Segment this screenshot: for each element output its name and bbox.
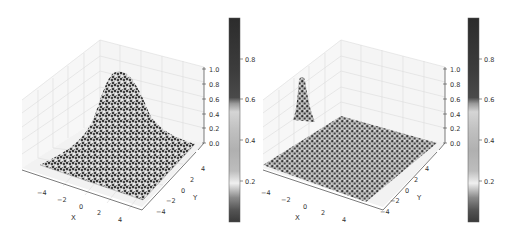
left-cbar-tick-0.6: 0.6	[245, 96, 255, 104]
right-colorbar: 0.8 0.6 0.4 0.2	[468, 18, 494, 222]
left-cbar-tick-0.8: 0.8	[245, 56, 255, 64]
left-z-tick-0.4: 0.4	[209, 111, 219, 119]
right-z-tick-1.0: 1.0	[450, 66, 460, 74]
left-y-tick-2: 2	[190, 176, 194, 184]
right-cbar-tick-0.6: 0.6	[484, 96, 494, 104]
right-x-tick--4: −4	[261, 189, 271, 197]
left-x-tick-4: 4	[118, 216, 122, 224]
left-z-tick-0.6: 0.6	[209, 96, 219, 104]
figure: 1.0 0.8 0.6 0.4 0.2 0.0 −4 −2 0 2 4 X 4 …	[0, 0, 517, 236]
right-y-tick--4: −4	[380, 208, 390, 216]
left-z-tick-1.0: 1.0	[209, 66, 219, 74]
right-y-tick-0: 0	[405, 187, 409, 195]
right-y-tick--2: −2	[390, 197, 400, 205]
left-z-tick-0.2: 0.2	[209, 125, 219, 133]
right-x-axis-label: X	[295, 214, 300, 222]
left-x-tick--4: −4	[37, 189, 47, 197]
right-x-tick-2: 2	[321, 209, 325, 217]
left-colorbar: 0.8 0.6 0.4 0.2	[229, 18, 255, 222]
left-y-tick--2: −2	[166, 197, 176, 205]
right-x-tick-0: 0	[303, 203, 307, 211]
left-y-tick--4: −4	[156, 208, 166, 216]
right-z-tick-0.8: 0.8	[450, 81, 460, 89]
right-z-tick-0.4: 0.4	[450, 111, 460, 119]
left-x-tick-2: 2	[97, 209, 101, 217]
right-cbar-tick-0.2: 0.2	[484, 178, 494, 186]
left-cbar-tick-0.2: 0.2	[245, 178, 255, 186]
left-x-tick-0: 0	[79, 203, 83, 211]
left-3d-axes: 1.0 0.8 0.6 0.4 0.2 0.0 −4 −2 0 2 4 X 4 …	[22, 40, 219, 224]
right-z-tick-0.2: 0.2	[450, 125, 460, 133]
right-z-tick-0.6: 0.6	[450, 96, 460, 104]
left-y-axis-label: Y	[192, 194, 198, 202]
left-z-tick-0.8: 0.8	[209, 81, 219, 89]
right-z-tick-0.0: 0.0	[450, 140, 460, 148]
left-colorbar-gradient	[229, 18, 240, 222]
left-y-tick-0: 0	[181, 187, 185, 195]
left-x-axis-label: X	[71, 214, 76, 222]
right-cbar-tick-0.4: 0.4	[484, 137, 494, 145]
right-x-tick-4: 4	[342, 216, 346, 224]
right-y-tick-4: 4	[425, 165, 429, 173]
right-cbar-tick-0.8: 0.8	[484, 56, 494, 64]
left-x-tick--2: −2	[57, 196, 67, 204]
right-x-tick--2: −2	[281, 196, 291, 204]
figure-canvas: 1.0 0.8 0.6 0.4 0.2 0.0 −4 −2 0 2 4 X 4 …	[0, 0, 517, 236]
left-y-tick-4: 4	[201, 165, 205, 173]
right-colorbar-gradient	[468, 18, 479, 222]
left-cbar-tick-0.4: 0.4	[245, 137, 255, 145]
right-3d-axes: 1.0 0.8 0.6 0.4 0.2 0.0 −4 −2 0 2 4 X 4 …	[261, 40, 460, 224]
left-z-tick-0.0: 0.0	[209, 140, 219, 148]
right-y-tick-2: 2	[414, 176, 418, 184]
right-y-axis-label: Y	[416, 194, 422, 202]
